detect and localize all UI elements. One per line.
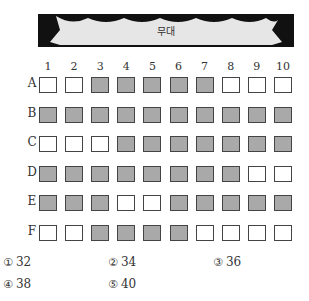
seat-D6 [170,166,188,182]
seat-B2 [65,107,83,123]
seat-C6 [170,136,188,152]
column-label: 7 [196,60,214,73]
seat-A8 [222,77,240,93]
choice-4[interactable]: ④38 [3,277,31,291]
seat-C5 [143,136,161,152]
seat-B4 [117,107,135,123]
seat-C1 [39,136,57,152]
seat-E6 [170,195,188,211]
column-label: 8 [222,60,240,73]
seat-A4 [117,77,135,93]
seat-B1 [39,107,57,123]
seat-E3 [91,195,109,211]
seat-C8 [222,136,240,152]
seat-F5 [143,225,161,241]
seat-B3 [91,107,109,123]
seat-C10 [274,136,292,152]
seat-C7 [196,136,214,152]
seat-B7 [196,107,214,123]
seat-E1 [39,195,57,211]
seat-F4 [117,225,135,241]
seat-D5 [143,166,161,182]
seat-F1 [39,225,57,241]
seat-D10 [274,166,292,182]
seat-A5 [143,77,161,93]
row-label: A [26,76,38,90]
seat-C3 [91,136,109,152]
column-label: 5 [143,60,161,73]
seat-A2 [65,77,83,93]
seat-E4 [117,195,135,211]
seat-D4 [117,166,135,182]
row-label: C [26,135,38,149]
stage-label: 무대 [38,14,294,47]
seat-F2 [65,225,83,241]
seat-E5 [143,195,161,211]
stage: 무대 [38,14,294,47]
seat-F3 [91,225,109,241]
row-label: D [26,165,38,179]
seat-B8 [222,107,240,123]
seat-E9 [248,195,266,211]
seat-B5 [143,107,161,123]
seat-C9 [248,136,266,152]
seat-A9 [248,77,266,93]
seat-F6 [170,225,188,241]
seat-E10 [274,195,292,211]
column-label: 4 [117,60,135,73]
seat-B9 [248,107,266,123]
column-label: 9 [248,60,266,73]
seat-D8 [222,166,240,182]
seat-D3 [91,166,109,182]
choice-3[interactable]: ③36 [213,255,241,269]
seat-A3 [91,77,109,93]
seat-D7 [196,166,214,182]
seat-A6 [170,77,188,93]
row-label: F [26,224,38,238]
seat-F10 [274,225,292,241]
choice-5[interactable]: ⑤40 [108,277,136,291]
seat-B6 [170,107,188,123]
column-label: 1 [39,60,57,73]
seat-B10 [274,107,292,123]
column-label: 2 [65,60,83,73]
seat-F7 [196,225,214,241]
choice-2[interactable]: ②34 [108,255,136,269]
column-label: 3 [91,60,109,73]
seat-A7 [196,77,214,93]
seat-D1 [39,166,57,182]
column-label: 6 [170,60,188,73]
choice-1[interactable]: ①32 [3,255,31,269]
row-label: B [26,106,38,120]
seat-D9 [248,166,266,182]
seat-D2 [65,166,83,182]
seat-C2 [65,136,83,152]
seat-E7 [196,195,214,211]
seat-F9 [248,225,266,241]
seat-C4 [117,136,135,152]
seat-A10 [274,77,292,93]
seat-F8 [222,225,240,241]
seat-E8 [222,195,240,211]
seat-E2 [65,195,83,211]
row-label: E [26,194,38,208]
column-label: 10 [274,60,292,73]
seat-A1 [39,77,57,93]
